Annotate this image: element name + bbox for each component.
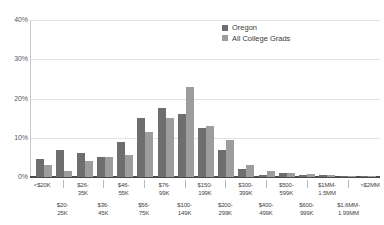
x-axis-tick-text: $1.6MM- 1.99MM bbox=[337, 202, 360, 217]
x-axis-tick-text: $1MM- 1.5MM bbox=[317, 182, 337, 197]
x-axis-tick-text: <$20K bbox=[32, 182, 52, 190]
x-axis-tick-label: $150- 199K bbox=[195, 180, 215, 225]
y-axis-tick-label: 0% bbox=[2, 173, 28, 180]
bar-group bbox=[115, 20, 135, 177]
bar bbox=[117, 142, 125, 177]
bar bbox=[360, 176, 368, 177]
bar-chart: 40%30%20%10%0% OregonAll College Grads <… bbox=[0, 0, 384, 225]
bar bbox=[226, 140, 234, 177]
bar bbox=[267, 171, 275, 177]
chart-legend: OregonAll College Grads bbox=[222, 24, 290, 42]
x-axis-tick-mark bbox=[144, 180, 145, 188]
x-axis-tick-mark bbox=[103, 180, 104, 188]
x-axis-tick-label: $1.6MM- 1.99MM bbox=[337, 180, 360, 225]
x-axis-tick-text: $600- 999K bbox=[296, 202, 316, 217]
bar bbox=[246, 165, 254, 177]
bar-group bbox=[176, 20, 196, 177]
bar-group bbox=[257, 20, 277, 177]
bar-group bbox=[34, 20, 54, 177]
bar bbox=[299, 175, 307, 177]
x-axis-tick-label: $100- 149K bbox=[174, 180, 194, 225]
x-axis-tick-label: $26- 35K bbox=[73, 180, 93, 225]
x-axis-tick-text: $76- 99K bbox=[154, 182, 174, 197]
bars-layer bbox=[31, 20, 380, 177]
y-axis-tick-label: 10% bbox=[2, 134, 28, 141]
x-axis-tick-label: $56- 75K bbox=[134, 180, 154, 225]
bar-group bbox=[155, 20, 175, 177]
x-axis-tick-label: $400- 499K bbox=[256, 180, 276, 225]
bar-group bbox=[338, 20, 358, 177]
bar-group bbox=[54, 20, 74, 177]
x-axis-tick-mark bbox=[266, 180, 267, 188]
bar-group bbox=[216, 20, 236, 177]
x-axis-tick-label: $20- 25K bbox=[52, 180, 72, 225]
bar-group bbox=[74, 20, 94, 177]
x-axis-tick-text: $46- 55K bbox=[113, 182, 133, 197]
bar bbox=[178, 114, 186, 177]
bar bbox=[97, 157, 105, 177]
x-axis-tick-text: >$2MM bbox=[360, 182, 380, 190]
x-axis-tick-label: $200- 299K bbox=[215, 180, 235, 225]
bar bbox=[348, 176, 356, 177]
bar bbox=[158, 108, 166, 177]
bar bbox=[238, 169, 246, 177]
bar bbox=[56, 150, 64, 177]
x-axis-labels: <$20K$20- 25K$26- 35K$36- 45K$46- 55K$56… bbox=[31, 180, 381, 225]
bar bbox=[327, 175, 335, 177]
x-axis-tick-label: $500- 599K bbox=[276, 180, 296, 225]
bar-group bbox=[297, 20, 317, 177]
bar bbox=[287, 173, 295, 177]
bar bbox=[137, 118, 145, 177]
bar bbox=[64, 171, 72, 177]
legend-swatch-icon bbox=[222, 25, 228, 31]
bar bbox=[77, 153, 85, 177]
bar bbox=[44, 165, 52, 177]
bar bbox=[166, 118, 174, 177]
bar-group bbox=[317, 20, 337, 177]
bar bbox=[368, 176, 376, 177]
bar bbox=[105, 157, 113, 177]
bar bbox=[198, 128, 206, 177]
x-axis-tick-label: >$2MM bbox=[360, 180, 380, 225]
x-axis-tick-label: $600- 999K bbox=[296, 180, 316, 225]
legend-swatch-icon bbox=[222, 35, 228, 41]
bar bbox=[259, 175, 267, 177]
x-axis-tick-mark bbox=[225, 180, 226, 188]
bar-group bbox=[236, 20, 256, 177]
x-axis-tick-text: $20- 25K bbox=[52, 202, 72, 217]
bar-group bbox=[277, 20, 297, 177]
bar-group bbox=[135, 20, 155, 177]
x-axis-tick-text: $500- 599K bbox=[276, 182, 296, 197]
bar bbox=[36, 159, 44, 177]
x-axis-tick-label: $46- 55K bbox=[113, 180, 133, 225]
y-axis-tick-label: 20% bbox=[2, 95, 28, 102]
x-axis-tick-text: $400- 499K bbox=[256, 202, 276, 217]
y-axis-tick-label: 40% bbox=[2, 16, 28, 23]
x-axis-tick-text: $150- 199K bbox=[195, 182, 215, 197]
x-axis-tick-text: $56- 75K bbox=[134, 202, 154, 217]
plot-area bbox=[30, 20, 380, 177]
bar bbox=[145, 132, 153, 177]
legend-item[interactable]: All College Grads bbox=[222, 35, 290, 43]
x-axis-tick-text: $36- 45K bbox=[93, 202, 113, 217]
bar bbox=[307, 174, 315, 177]
legend-item-label: All College Grads bbox=[232, 35, 290, 43]
bar bbox=[206, 126, 214, 177]
x-axis-tick-label: <$20K bbox=[32, 180, 52, 225]
x-axis-tick-text: $100- 149K bbox=[174, 202, 194, 217]
x-axis-tick-text: $200- 299K bbox=[215, 202, 235, 217]
x-axis-tick-label: $1MM- 1.5MM bbox=[317, 180, 337, 225]
bar-group bbox=[95, 20, 115, 177]
x-axis-tick-text: $26- 35K bbox=[73, 182, 93, 197]
x-axis-tick-label: $300- 399K bbox=[235, 180, 255, 225]
bar bbox=[125, 155, 133, 177]
bar bbox=[340, 176, 348, 177]
x-axis-tick-mark bbox=[307, 180, 308, 188]
x-axis-tick-mark bbox=[348, 180, 349, 188]
legend-item[interactable]: Oregon bbox=[222, 24, 290, 32]
x-axis-tick-text: $300- 399K bbox=[235, 182, 255, 197]
x-axis-tick-label: $76- 99K bbox=[154, 180, 174, 225]
bar bbox=[218, 150, 226, 177]
bar bbox=[319, 175, 327, 177]
bar bbox=[85, 161, 93, 177]
